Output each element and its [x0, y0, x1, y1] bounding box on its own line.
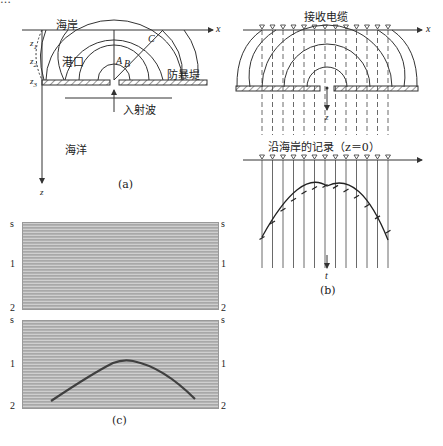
c-bot-left-tick-1: 1 [10, 358, 15, 369]
coast-record-title: 沿海岸的记录（z＝0） [268, 138, 380, 154]
b-x-axis-label: x [426, 23, 430, 34]
panel-b-caption: (b) [320, 284, 336, 297]
c-bot-right-tick-1: 1 [221, 358, 226, 369]
seismic-section-bottom [22, 320, 219, 409]
c-top-left-tick-2: 2 [10, 302, 15, 313]
panel-c-caption: (c) [112, 414, 127, 427]
c-top-right-tick-2: 2 [221, 302, 226, 313]
c-bot-right-tick-s: s [221, 314, 225, 325]
c-top-right-tick-s: s [221, 218, 225, 229]
c-bot-left-tick-s: s [10, 314, 14, 325]
c-bot-left-tick-2: 2 [10, 400, 15, 411]
c-top-right-tick-1: 1 [221, 258, 226, 269]
b-z-axis-label: z [325, 112, 329, 122]
c-bot-right-tick-2: 2 [221, 400, 226, 411]
c-top-left-tick-s: s [10, 218, 14, 229]
seismic-section-top [22, 222, 219, 310]
c-top-left-tick-1: 1 [10, 258, 15, 269]
receiver-cable-title: 接收电缆 [304, 8, 348, 24]
t-axis-label: t [325, 270, 328, 281]
diffraction-hyperbola [23, 321, 218, 408]
